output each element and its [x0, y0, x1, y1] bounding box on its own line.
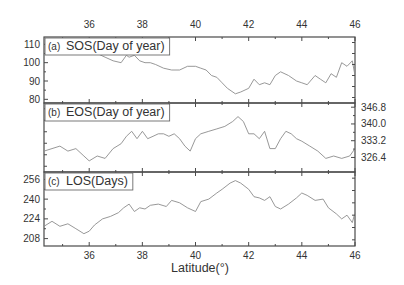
x-tick-label-bottom: 36 [84, 250, 96, 261]
y-tick-label: 100 [23, 57, 40, 68]
y-tick-label: 90 [29, 76, 41, 87]
x-tick-label-top: 38 [137, 19, 149, 30]
x-tick-label-top: 44 [296, 19, 308, 30]
panel-tag: (b) [48, 107, 60, 118]
panel-b-line [44, 117, 355, 161]
x-axis-title: Latitude(°) [171, 261, 229, 275]
x-tick-label-bottom: 46 [349, 250, 361, 261]
data-lines [44, 44, 355, 233]
y-tick-label: 240 [23, 194, 40, 205]
panel-frames [44, 37, 355, 246]
panel-title: SOS(Day of year) [66, 39, 165, 53]
axis-ticks [44, 37, 355, 246]
panel-a-title-box: (a)SOS(Day of year) [45, 38, 170, 55]
y-tick-label: 208 [23, 233, 40, 244]
panel-b-title-box: (b)EOS(Day of year) [45, 104, 170, 121]
panel-tag: (c) [48, 176, 60, 187]
y-tick-label: 346.8 [361, 102, 386, 113]
y-tick-label: 80 [29, 94, 41, 105]
x-tick-label-bottom: 44 [296, 250, 308, 261]
panel-c-title-box: (c)LOS(Days) [45, 173, 133, 190]
x-tick-label-bottom: 40 [190, 250, 202, 261]
x-tick-label-top: 46 [349, 19, 361, 30]
panel-tag: (a) [48, 41, 60, 52]
x-tick-label-bottom: 42 [243, 250, 255, 261]
y-tick-label: 110 [24, 39, 40, 50]
latitude-phenology-figure: 8090100110326.4333.2340.0346.82082242402… [0, 0, 404, 285]
y-tick-label: 224 [23, 213, 40, 224]
x-tick-label-top: 40 [190, 19, 202, 30]
y-tick-label: 333.2 [361, 135, 386, 146]
y-tick-label: 256 [23, 174, 40, 185]
y-tick-label: 340.0 [361, 118, 386, 129]
x-tick-label-top: 36 [84, 19, 96, 30]
y-tick-label: 326.4 [361, 152, 386, 163]
panel-title: LOS(Days) [66, 174, 128, 188]
panel-titles: (a)SOS(Day of year)(b)EOS(Day of year)(c… [45, 38, 170, 190]
x-tick-label-top: 42 [243, 19, 255, 30]
panel-title: EOS(Day of year) [66, 105, 165, 119]
x-tick-label-bottom: 38 [137, 250, 149, 261]
